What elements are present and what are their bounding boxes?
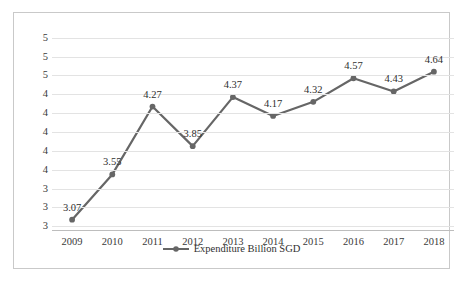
y-axis-tick-label: 4 (43, 108, 48, 119)
y-axis-tick-label: 4 (43, 146, 48, 157)
chart-container: 5554444433320092010201120122013201420152… (0, 0, 463, 281)
y-axis-tick-label: 3 (43, 183, 48, 194)
data-point-label: 4.17 (264, 98, 282, 109)
data-point-label: 4.32 (304, 84, 322, 95)
data-point-label: 4.37 (224, 80, 242, 91)
gridline (52, 38, 454, 39)
gridline (52, 132, 454, 133)
gridline (52, 170, 454, 171)
data-point-marker (150, 104, 156, 110)
data-point-marker (310, 99, 316, 105)
y-axis-tick-label: 5 (43, 32, 48, 43)
y-axis-tick-label: 5 (43, 51, 48, 62)
gridline (52, 207, 454, 208)
data-point-marker (190, 143, 196, 149)
legend-line-marker-icon (163, 244, 189, 254)
gridline (52, 151, 454, 152)
y-axis-tick-label: 4 (43, 127, 48, 138)
y-axis-tick-label: 4 (43, 89, 48, 100)
y-axis-tick-label: 3 (43, 202, 48, 213)
y-axis-tick-label: 4 (43, 164, 48, 175)
data-point-marker (109, 172, 115, 178)
data-point-label: 4.27 (143, 89, 161, 100)
legend-label-expenditure: Expenditure Billion SGD (194, 244, 301, 255)
chart-legend: Expenditure Billion SGD (14, 244, 449, 255)
chart-frame: 5554444433320092010201120122013201420152… (13, 12, 450, 269)
data-point-marker (69, 217, 75, 223)
data-point-label: 3.07 (63, 202, 81, 213)
data-point-label: 4.43 (385, 74, 403, 85)
gridline (52, 94, 454, 95)
data-point-label: 4.57 (344, 61, 362, 72)
gridline (52, 113, 454, 114)
gridline (52, 57, 454, 58)
gridline (52, 189, 454, 190)
plot-area: 5554444433320092010201120122013201420152… (52, 33, 454, 231)
data-point-label: 3.85 (184, 129, 202, 140)
y-axis-tick-label: 3 (43, 221, 48, 232)
gridline (52, 226, 454, 227)
y-axis-tick-label: 5 (43, 70, 48, 81)
data-point-label: 4.64 (425, 54, 443, 65)
data-point-marker (431, 69, 437, 75)
data-point-label: 3.55 (103, 157, 121, 168)
